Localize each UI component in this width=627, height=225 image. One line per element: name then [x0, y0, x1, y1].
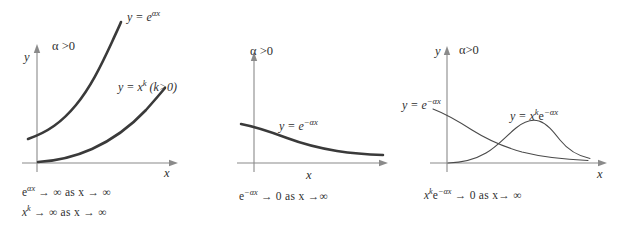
- x-axis-label: x: [306, 169, 312, 182]
- y-axis: [34, 44, 40, 172]
- x-axis-arrow-icon: [598, 160, 607, 166]
- x-axis: [430, 160, 607, 166]
- alpha-condition-note: α >0: [250, 44, 273, 59]
- x-axis-arrow-icon: [379, 160, 388, 166]
- alpha-condition-note: α >0: [52, 39, 75, 54]
- y-axis-label: y: [24, 51, 30, 64]
- caption-exponential-limit: eαx → ∞ as x → ∞: [22, 185, 111, 198]
- power-curve-label: y = xk (k>0): [118, 79, 177, 93]
- caption-decay-limit: e−αx → 0 as x →∞: [239, 189, 328, 202]
- y-axis-arrow-icon: [34, 44, 40, 53]
- exponential-decay-curve-label: y = e−αx: [402, 97, 441, 111]
- caption-product-limit: xke−αx → 0 as x→ ∞: [424, 188, 522, 201]
- x-axis-label: x: [597, 168, 603, 181]
- power-times-decay-curve: [448, 120, 590, 163]
- y-axis: [444, 46, 450, 172]
- y-axis: [251, 52, 257, 172]
- panel-product: α>0 y x y = e−αx y = xke−αx xke−αx → 0 a…: [400, 0, 627, 225]
- alpha-condition-note: α>0: [459, 43, 479, 58]
- panel-exponential-power: α >0 y x y = eαx y = xk (k>0) eαx → ∞ as…: [0, 0, 205, 225]
- exponential-growth-curve-label: y = eαx: [127, 9, 160, 23]
- caption-power-limit: xk → ∞ as x → ∞: [22, 205, 107, 218]
- y-axis-label: y: [435, 45, 441, 58]
- x-axis-label: x: [164, 167, 170, 180]
- figure-asymptotic-behaviour: α >0 y x y = eαx y = xk (k>0) eαx → ∞ as…: [0, 0, 627, 225]
- y-axis-arrow-icon: [444, 46, 450, 55]
- x-axis-arrow-icon: [169, 160, 178, 166]
- panel-decaying-exponential: α >0 x y = e−αx e−αx → 0 as x →∞: [205, 0, 400, 225]
- exponential-decay-curve-label: y = e−αx: [279, 118, 318, 132]
- x-axis: [237, 160, 388, 166]
- power-times-decay-curve-label: y = xke−αx: [510, 108, 558, 122]
